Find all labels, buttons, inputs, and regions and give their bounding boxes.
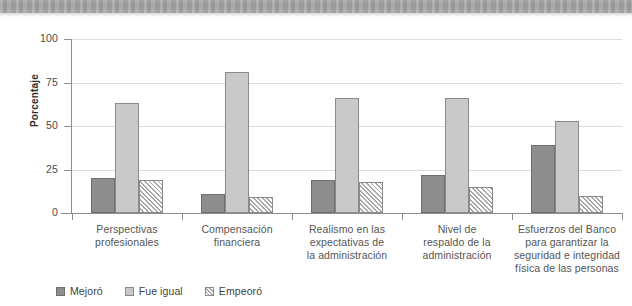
bar-igual-group-5 [555, 121, 579, 213]
y-tick-mark [64, 126, 72, 127]
x-tick-mark [182, 213, 183, 220]
legend-label: Mejoró [70, 285, 103, 297]
bar-mejoro-group-4 [421, 175, 445, 213]
bar-igual-group-4 [445, 98, 469, 213]
x-category-label-line: física de las personas [504, 262, 630, 275]
x-tick-mark [72, 213, 73, 220]
bar-empeoro-group-5 [579, 196, 603, 213]
y-tick-label: 100 [18, 32, 58, 44]
bar-mejoro-group-5 [531, 145, 555, 213]
legend-swatch-icon [125, 287, 134, 296]
x-axis-line [61, 213, 622, 214]
legend-label: Fue igual [139, 285, 183, 297]
x-tick-mark [512, 213, 513, 220]
x-category-label-line: la administración [284, 249, 410, 262]
y-tick-label: 0 [18, 206, 58, 218]
x-category-label-line: Perspectivas [64, 223, 190, 236]
x-tick-mark [402, 213, 403, 220]
x-category-label: Realismo en lasexpectativas dela adminis… [284, 223, 410, 262]
x-category-label-line: respaldo de la [394, 236, 520, 249]
x-category-label: Esfuerzos del Bancopara garantizar laseg… [504, 223, 630, 275]
bar-igual-group-2 [225, 72, 249, 213]
bar-mejoro-group-2 [201, 194, 225, 213]
legend-item-mejoro[interactable]: Mejoró [56, 285, 103, 297]
plot-region [72, 39, 622, 213]
bar-empeoro-group-3 [359, 182, 383, 213]
x-category-label-line: Realismo en las [284, 223, 410, 236]
x-category-label-line: expectativas de [284, 236, 410, 249]
y-tick-label: 75 [18, 76, 58, 88]
bar-chart: Porcentaje 1007550250 Perspectivasprofes… [0, 17, 632, 306]
x-category-label: Compensaciónfinanciera [174, 223, 300, 249]
bar-mejoro-group-3 [311, 180, 335, 213]
x-category-label-line: profesionales [64, 236, 190, 249]
bar-empeoro-group-2 [249, 197, 273, 213]
y-tick-mark [64, 39, 72, 40]
legend-swatch-icon [56, 287, 65, 296]
y-tick-mark [64, 170, 72, 171]
bar-empeoro-group-4 [469, 187, 493, 213]
x-category-label: Nivel derespaldo de laadministración [394, 223, 520, 262]
x-category-label-line: administración [394, 249, 520, 262]
x-tick-mark [622, 213, 623, 220]
chart-legend: MejoróFue igualEmpeoró [56, 285, 262, 297]
bar-empeoro-group-1 [139, 180, 163, 213]
x-category-label-line: Nivel de [394, 223, 520, 236]
bar-igual-group-3 [335, 98, 359, 213]
legend-label: Empeoró [219, 285, 262, 297]
scanned-page-banner [0, 0, 632, 13]
y-tick-label: 50 [18, 119, 58, 131]
x-category-label-line: seguridad e integridad [504, 249, 630, 262]
y-tick-label: 25 [18, 163, 58, 175]
x-category-label-line: Compensación [174, 223, 300, 236]
x-category-label-line: financiera [174, 236, 300, 249]
x-category-label: Perspectivasprofesionales [64, 223, 190, 249]
x-category-label-line: Esfuerzos del Banco [504, 223, 630, 236]
bar-igual-group-1 [115, 103, 139, 213]
legend-item-empeoro[interactable]: Empeoró [205, 285, 262, 297]
x-tick-mark [292, 213, 293, 220]
legend-swatch-icon [205, 287, 214, 296]
x-category-label-line: para garantizar la [504, 236, 630, 249]
y-tick-mark [64, 213, 72, 214]
y-tick-mark [64, 83, 72, 84]
legend-item-igual[interactable]: Fue igual [125, 285, 183, 297]
bar-mejoro-group-1 [91, 178, 115, 213]
